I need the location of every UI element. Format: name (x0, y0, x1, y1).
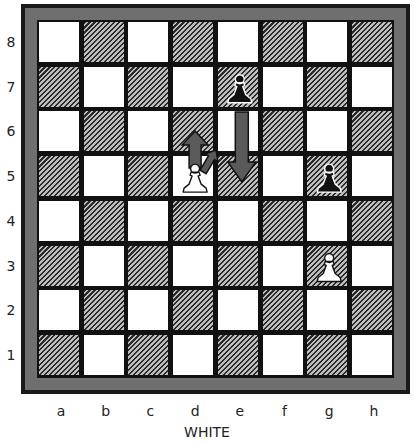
square-d3[interactable] (173, 246, 213, 286)
square-h5[interactable] (352, 156, 392, 196)
rank-label-3: 3 (4, 258, 18, 274)
square-e5[interactable] (218, 156, 258, 196)
square-e3[interactable] (218, 246, 258, 286)
square-g2[interactable] (307, 290, 347, 330)
file-label-d: d (185, 403, 205, 419)
square-b7[interactable] (84, 67, 124, 107)
square-c7[interactable] (128, 67, 168, 107)
square-g4[interactable] (307, 201, 347, 241)
square-h4[interactable] (352, 201, 392, 241)
square-f5[interactable] (263, 156, 303, 196)
chessboard (37, 20, 394, 378)
side-label: WHITE (0, 424, 414, 440)
square-a6[interactable] (39, 111, 79, 151)
rank-label-5: 5 (4, 168, 18, 184)
square-c2[interactable] (128, 290, 168, 330)
chessboard-frame (21, 4, 410, 394)
square-e4[interactable] (218, 201, 258, 241)
square-a3[interactable] (39, 246, 79, 286)
square-a5[interactable] (39, 156, 79, 196)
square-h1[interactable] (352, 335, 392, 375)
square-b6[interactable] (84, 111, 124, 151)
rank-label-8: 8 (4, 34, 18, 50)
file-label-c: c (140, 403, 160, 419)
square-f8[interactable] (263, 22, 303, 62)
square-b5[interactable] (84, 156, 124, 196)
file-label-g: g (319, 403, 339, 419)
square-e6[interactable] (218, 111, 258, 151)
square-e8[interactable] (218, 22, 258, 62)
square-h3[interactable] (352, 246, 392, 286)
square-g6[interactable] (307, 111, 347, 151)
square-f4[interactable] (263, 201, 303, 241)
square-g3[interactable] (307, 246, 347, 286)
square-c1[interactable] (128, 335, 168, 375)
file-label-e: e (230, 403, 250, 419)
square-f2[interactable] (263, 290, 303, 330)
square-g5[interactable] (307, 156, 347, 196)
square-h2[interactable] (352, 290, 392, 330)
square-a4[interactable] (39, 201, 79, 241)
square-c8[interactable] (128, 22, 168, 62)
square-d6[interactable] (173, 111, 213, 151)
file-label-a: a (51, 403, 71, 419)
square-d2[interactable] (173, 290, 213, 330)
file-label-b: b (96, 403, 116, 419)
square-f3[interactable] (263, 246, 303, 286)
square-e7[interactable] (218, 67, 258, 107)
square-g7[interactable] (307, 67, 347, 107)
rank-label-6: 6 (4, 123, 18, 139)
square-d4[interactable] (173, 201, 213, 241)
rank-label-7: 7 (4, 79, 18, 95)
file-label-f: f (275, 403, 295, 419)
square-g8[interactable] (307, 22, 347, 62)
rank-label-4: 4 (4, 213, 18, 229)
square-f6[interactable] (263, 111, 303, 151)
square-b4[interactable] (84, 201, 124, 241)
square-d8[interactable] (173, 22, 213, 62)
square-b1[interactable] (84, 335, 124, 375)
square-h6[interactable] (352, 111, 392, 151)
square-e2[interactable] (218, 290, 258, 330)
square-a2[interactable] (39, 290, 79, 330)
square-h7[interactable] (352, 67, 392, 107)
square-a8[interactable] (39, 22, 79, 62)
square-c3[interactable] (128, 246, 168, 286)
square-e1[interactable] (218, 335, 258, 375)
square-a1[interactable] (39, 335, 79, 375)
square-f1[interactable] (263, 335, 303, 375)
square-f7[interactable] (263, 67, 303, 107)
square-c5[interactable] (128, 156, 168, 196)
rank-label-1: 1 (4, 347, 18, 363)
file-label-h: h (364, 403, 384, 419)
rank-label-2: 2 (4, 302, 18, 318)
square-g1[interactable] (307, 335, 347, 375)
square-a7[interactable] (39, 67, 79, 107)
square-d1[interactable] (173, 335, 213, 375)
square-h8[interactable] (352, 22, 392, 62)
square-d5[interactable] (173, 156, 213, 196)
square-c6[interactable] (128, 111, 168, 151)
square-d7[interactable] (173, 67, 213, 107)
square-c4[interactable] (128, 201, 168, 241)
square-b2[interactable] (84, 290, 124, 330)
square-b3[interactable] (84, 246, 124, 286)
square-b8[interactable] (84, 22, 124, 62)
